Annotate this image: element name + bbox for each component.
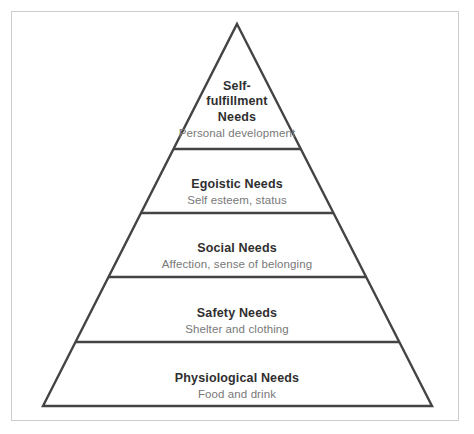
tier-title-self-fulfillment: Self- fulfillment Needs: [0, 79, 474, 125]
tier-subtitle-social: Affection, sense of belonging: [0, 259, 474, 271]
tier-title-physiological: Physiological Needs: [0, 371, 474, 386]
tier-title-social: Social Needs: [0, 241, 474, 256]
pyramid-tier-egoistic: Egoistic Needs Self esteem, status: [0, 177, 474, 207]
tier-subtitle-self-fulfillment: Personal development: [0, 128, 474, 140]
pyramid-diagram: Self- fulfillment Needs Personal develop…: [0, 0, 474, 434]
tier-text-layer: Self- fulfillment Needs Personal develop…: [0, 0, 474, 434]
pyramid-tier-physiological: Physiological Needs Food and drink: [0, 371, 474, 401]
tier-title-egoistic: Egoistic Needs: [0, 177, 474, 192]
tier-subtitle-egoistic: Self esteem, status: [0, 195, 474, 207]
pyramid-tier-social: Social Needs Affection, sense of belongi…: [0, 241, 474, 271]
tier-subtitle-safety: Shelter and clothing: [0, 324, 474, 336]
tier-subtitle-physiological: Food and drink: [0, 389, 474, 401]
pyramid-tier-safety: Safety Needs Shelter and clothing: [0, 306, 474, 336]
tier-title-safety: Safety Needs: [0, 306, 474, 321]
pyramid-tier-self-fulfillment: Self- fulfillment Needs Personal develop…: [0, 79, 474, 139]
